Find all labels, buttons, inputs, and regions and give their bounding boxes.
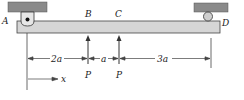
pin-icon (26, 18, 30, 22)
label-d: D (221, 18, 229, 28)
label-b: B (84, 9, 92, 19)
dim-bc: a (101, 54, 106, 64)
dim-cd: 3a (157, 54, 168, 64)
roller-icon (204, 12, 213, 21)
axis-label-x: x (61, 74, 66, 84)
beam-diagram: A B C D 2a a 3a P P x (0, 0, 244, 100)
arrowhead-icon (86, 35, 91, 41)
dim-ab: 2a (50, 54, 62, 64)
right-support-plate (194, 3, 228, 12)
beam (17, 21, 220, 33)
label-a: A (1, 16, 9, 26)
load-label-c: P (115, 70, 123, 80)
load-label-b: P (84, 70, 92, 80)
left-support-plate (8, 2, 47, 12)
arrowhead-icon (117, 35, 122, 41)
label-c: C (115, 9, 122, 19)
